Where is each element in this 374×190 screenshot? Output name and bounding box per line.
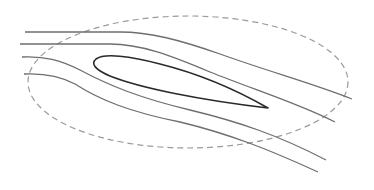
diagram-canvas: [0, 0, 374, 190]
streamline-1: [25, 32, 352, 99]
airfoil-flow-diagram: [0, 0, 374, 190]
streamline-3: [22, 57, 326, 160]
streamline-2: [20, 44, 335, 122]
control-volume-boundary: [28, 16, 348, 148]
airfoil-shape: [94, 56, 268, 108]
streamline-4: [24, 74, 318, 172]
